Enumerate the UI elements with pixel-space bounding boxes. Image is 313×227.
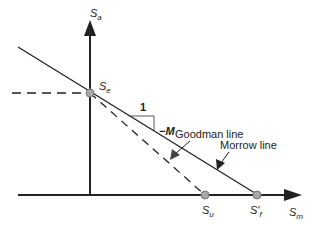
endurance-label-sub: e [106, 86, 111, 95]
ultimate-label: Su [202, 204, 214, 219]
fracture-label: S'f [250, 204, 262, 219]
slope-run-label: 1 [140, 101, 146, 113]
ultimate-point [201, 191, 209, 199]
endurance-point [86, 89, 94, 97]
fracture-label-sub: f [259, 210, 262, 219]
endurance-label: Se [99, 80, 111, 95]
slope-rise-label: −M [159, 125, 175, 137]
y-axis-label-sub: a [97, 13, 102, 22]
morrow-line-label: Morrow line [220, 139, 277, 151]
x-axis-arrow-icon [284, 189, 302, 201]
morrow-callout-arrow-icon [216, 152, 229, 170]
fatigue-diagram: 1 −M Sa Sm Se Su S'f Goodman line Morrow… [0, 0, 313, 227]
x-axis-label: Sm [289, 206, 303, 221]
x-axis-label-sub: m [296, 212, 303, 221]
goodman-line [90, 93, 205, 195]
y-axis-label: Sa [90, 7, 102, 22]
morrow-line [18, 47, 258, 195]
ultimate-label-sub: u [209, 210, 214, 219]
y-axis [84, 20, 96, 195]
fracture-point [253, 191, 261, 199]
y-axis-arrow-icon [84, 20, 96, 36]
